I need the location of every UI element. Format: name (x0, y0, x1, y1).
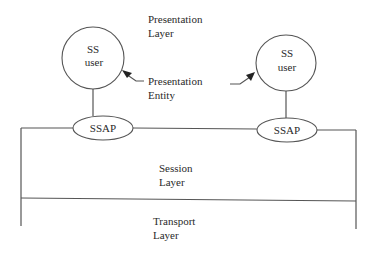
transport-layer-line1: Transport (153, 215, 195, 227)
right-user-line2: user (278, 61, 297, 73)
left-ssap-node: SSAP (73, 116, 133, 140)
session-top-boundary-middle (133, 128, 257, 129)
right-ssap-node: SSAP (257, 118, 317, 142)
presentation-layer-line2: Layer (148, 27, 174, 39)
left-ssap-label: SSAP (90, 122, 116, 134)
left-ss-user-node: SS user (62, 27, 124, 89)
presentation-entity-line2: Entity (148, 89, 175, 101)
transport-layer-line2: Layer (153, 229, 179, 241)
right-user-line1: SS (281, 47, 293, 59)
session-layer-line1: Session (159, 162, 193, 174)
right-ssap-label: SSAP (274, 124, 300, 136)
right-entity-arrow-icon (230, 72, 255, 84)
presentation-layer-line1: Presentation (148, 13, 203, 25)
left-user-line1: SS (87, 43, 99, 55)
left-entity-arrow-icon (122, 70, 144, 81)
presentation-entity-line1: Presentation (148, 75, 203, 87)
session-layer-diagram: SS user SS user SSAP SSAP Presentation L… (0, 0, 372, 254)
session-layer-line2: Layer (159, 176, 185, 188)
left-user-line2: user (85, 56, 104, 68)
session-transport-divider (21, 198, 356, 201)
right-ss-user-node: SS user (256, 35, 316, 91)
